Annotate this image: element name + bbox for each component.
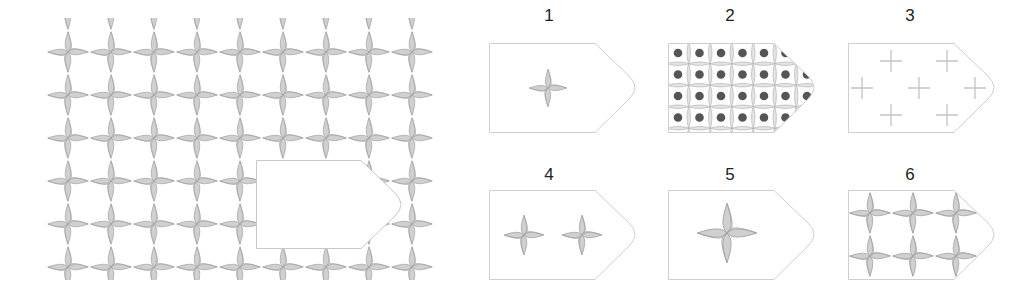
- missing-piece-outline: [257, 161, 402, 249]
- option-label-2: 2: [710, 6, 750, 26]
- star-pattern: [48, 0, 432, 287]
- option-label-3: 3: [890, 6, 930, 26]
- option-3[interactable]: [847, 42, 999, 134]
- option-label-6: 6: [890, 165, 930, 185]
- option-4[interactable]: [488, 189, 640, 281]
- option-5[interactable]: [667, 189, 819, 281]
- option-6[interactable]: [847, 189, 999, 281]
- option-label-1: 1: [529, 6, 569, 26]
- pattern-puzzle: [0, 0, 460, 296]
- option-label-5: 5: [710, 165, 750, 185]
- option-label-4: 4: [529, 165, 569, 185]
- option-2[interactable]: [667, 42, 819, 134]
- option-1[interactable]: [488, 42, 640, 134]
